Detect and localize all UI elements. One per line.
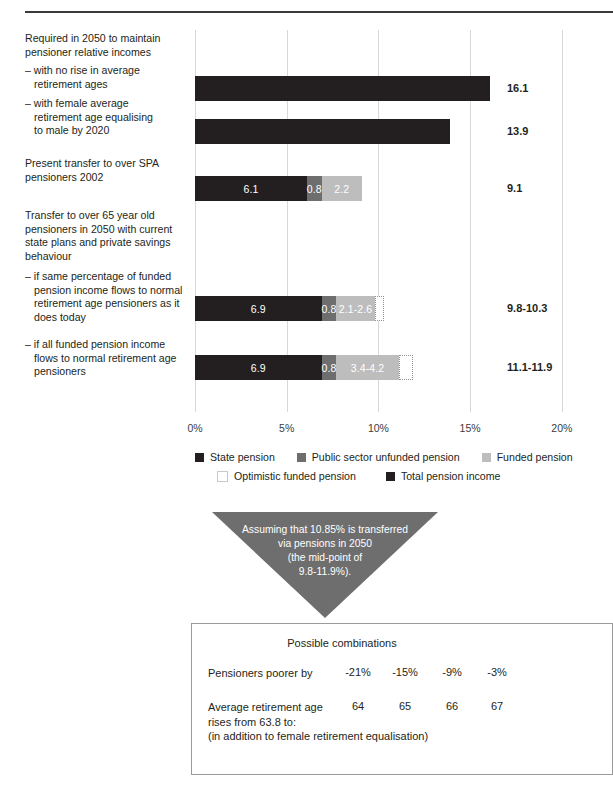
xtick-0: 0% [187,422,202,434]
cat4-line5: – if same percentage of funded [25,270,197,284]
cat5-line3: pensioners [25,365,197,379]
arrow-line-3: (the mid-point of [212,551,438,565]
cat1-line4: retirement ages [25,78,197,92]
legend-item-optimistic[interactable]: Optimistic funded pension [217,470,356,482]
cat1-line3: – with no rise in average [25,64,197,78]
bar-total-label-5: 11.1-11.9 [507,361,552,373]
chart-legend: State pension Public sector unfunded pen… [195,451,613,489]
combinations-row2-cell-3: 66 [432,700,472,712]
assumption-arrow: Assuming that 10.85% is transferred via … [212,512,438,618]
cat1-line1: Required in 2050 to maintain [25,32,197,46]
bar-segment-unfunded-4: 0.8 [322,296,337,321]
legend-item-unfunded[interactable]: Public sector unfunded pension [297,451,460,463]
xtick-5: 5% [279,422,294,434]
category-label-2: – with female average retirement age equ… [25,97,197,138]
xtick-10: 10% [368,422,389,434]
arrow-line-2: via pensions in 2050 [212,537,438,551]
combinations-panel: Possible combinations Pensioners poorer … [191,623,613,775]
cat4-line6: pension income flows to normal [25,284,197,298]
bar-row-2[interactable] [195,119,450,144]
legend-swatch-unfunded-icon [297,453,306,462]
bar-segment-unfunded-4-value: 0.8 [321,303,336,315]
combinations-row1-cell-3: -9% [432,666,472,678]
arrow-line-4: 9.8-11.9%). [212,565,438,579]
combinations-row2-cell-1: 64 [338,700,378,712]
bar-segment-state-5: 6.9 [195,355,322,380]
bar-chart: 0% 5% 10% 15% 20% Required in 2050 to ma… [0,30,613,420]
legend-item-total[interactable]: Total pension income [386,470,501,482]
cat5-line2: flows to normal retirement age [25,352,197,366]
arrow-line-1: Assuming that 10.85% is transferred [212,523,438,537]
combinations-row1-cell-1: -21% [338,666,378,678]
bar-segment-unfunded-5: 0.8 [322,355,337,380]
legend-label-total: Total pension income [401,470,501,482]
combinations-title: Possible combinations [192,637,492,649]
combinations-row1-cell-4: -3% [477,666,517,678]
legend-item-funded[interactable]: Funded pension [482,451,573,463]
combinations-row2-label-line2: rises from 63.8 to: [208,715,428,730]
bar-segment-unfunded-3-value: 0.8 [307,183,322,195]
legend-swatch-optimistic-icon [217,471,228,482]
cat4-line4: behaviour [25,250,197,264]
legend-label-unfunded: Public sector unfunded pension [312,451,460,463]
combinations-row2-cell-2: 65 [385,700,425,712]
combinations-row2-cell-4: 67 [477,700,517,712]
bar-row-1[interactable] [195,76,490,101]
category-label-group2: Transfer to over 65 year old pensioners … [25,209,197,263]
bar-segment-funded-4: 2.1-2.6 [336,296,375,321]
bar-segment-funded-5: 3.4-4.2 [336,355,398,380]
header-rule [25,11,613,13]
cat2-line1: – with female average [25,97,197,111]
bar-segment-unfunded-3: 0.8 [307,176,322,201]
bar-row-3[interactable]: 6.1 0.8 2.2 [195,176,362,201]
cat3-line1: Present transfer to over SPA [25,157,197,171]
combinations-row1-cell-2: -15% [385,666,425,678]
bar-segment-funded-3-value: 2.2 [334,183,349,195]
category-label-5: – if all funded pension income flows to … [25,338,197,379]
legend-row-2: Optimistic funded pension Total pension … [195,470,613,482]
legend-swatch-state-icon [195,453,204,462]
bar-total-label-3: 9.1 [507,182,522,194]
legend-label-funded: Funded pension [497,451,573,463]
cat4-line2: pensioners in 2050 with current [25,223,197,237]
arrow-text: Assuming that 10.85% is transferred via … [212,523,438,579]
cat5-line1: – if all funded pension income [25,338,197,352]
bar-segment-unfunded-5-value: 0.8 [321,362,336,374]
legend-label-state: State pension [210,451,275,463]
legend-swatch-total-icon [386,472,395,481]
bar-segment-state-5-value: 6.9 [251,362,266,374]
bar-row-5[interactable]: 6.9 0.8 3.4-4.2 [195,355,413,380]
cat4-line7: retirement age pensioners as it [25,297,197,311]
xtick-20: 20% [551,422,572,434]
bar-segment-funded-4-value: 2.1-2.6 [339,303,372,315]
combinations-row2-label-line3: (in addition to female retirement equali… [208,729,428,744]
cat3-line2: pensioners 2002 [25,171,197,185]
legend-row-1: State pension Public sector unfunded pen… [195,451,613,463]
chart-page: 0% 5% 10% 15% 20% Required in 2050 to ma… [0,0,613,788]
cat2-line3: to male by 2020 [25,124,197,138]
bar-row-4[interactable]: 6.9 0.8 2.1-2.6 [195,296,384,321]
bar-segment-total-2 [195,119,450,144]
gridline-20 [562,30,563,412]
bar-segment-state-3-value: 6.1 [243,183,258,195]
cat4-line1: Transfer to over 65 year old [25,209,197,223]
legend-label-optimistic: Optimistic funded pension [234,470,356,482]
bar-segment-funded-5-value: 3.4-4.2 [351,362,384,374]
bar-segment-state-4: 6.9 [195,296,322,321]
legend-swatch-funded-icon [482,453,491,462]
cat4-line8: does today [25,311,197,325]
combinations-row1-label: Pensioners poorer by [208,666,313,681]
bar-segment-total-1 [195,76,490,101]
bar-segment-state-3: 6.1 [195,176,307,201]
bar-segment-funded-3: 2.2 [322,176,362,201]
cat4-line3: state plans and private savings [25,236,197,250]
bar-segment-state-4-value: 6.9 [251,303,266,315]
category-label-1: – with no rise in average retirement age… [25,64,197,91]
bar-segment-optimistic-5 [399,355,414,380]
category-label-4: – if same percentage of funded pension i… [25,270,197,324]
category-label-3: Present transfer to over SPA pensioners … [25,157,197,184]
legend-item-state[interactable]: State pension [195,451,275,463]
bar-total-label-4: 9.8-10.3 [507,302,547,314]
category-label-group1: Required in 2050 to maintain pensioner r… [25,32,197,59]
cat2-line2: retirement age equalising [25,111,197,125]
